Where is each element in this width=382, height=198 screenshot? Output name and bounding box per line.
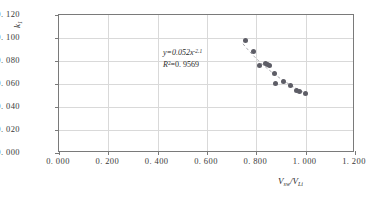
x-axis-tick-label: 1. 200 (342, 156, 366, 166)
y-axis-tick (55, 61, 59, 62)
chart-figure: k1 Vsw/VLi y=0.052x-2.1 R2=0. 9569 0. 00… (0, 0, 382, 198)
gridline-horizontal (59, 107, 353, 108)
gridline-vertical (306, 15, 307, 151)
gridline-horizontal (59, 61, 353, 62)
plot-area (58, 14, 354, 152)
y-axis-tick (55, 15, 59, 16)
y-axis-tick-label: 0. 000 (0, 147, 20, 157)
x-axis-tick-label: 0. 000 (46, 156, 70, 166)
x-axis-tick-label: 0. 400 (145, 156, 169, 166)
data-point (273, 81, 278, 86)
y-axis-tick-label: 0. 080 (0, 55, 20, 65)
y-axis-tick-label: 0. 020 (0, 124, 20, 134)
gridline-vertical (256, 15, 257, 151)
data-point (281, 79, 286, 84)
x-axis-tick (108, 151, 109, 155)
x-axis-tick (158, 151, 159, 155)
regression-equation: y=0.052x-2.1 (163, 46, 202, 58)
x-axis-tick-label: 1. 000 (293, 156, 317, 166)
x-axis-tick (59, 151, 60, 155)
gridline-vertical (158, 15, 159, 151)
x-axis-tick (207, 151, 208, 155)
y-axis-title: k1 (12, 21, 23, 28)
y-axis-tick (55, 130, 59, 131)
x-axis-tick-label: 0. 200 (96, 156, 120, 166)
x-axis-tick-label: 0. 600 (194, 156, 218, 166)
gridline-horizontal (59, 38, 353, 39)
x-axis-title: Vsw/VLi (278, 176, 303, 187)
y-axis-tick-label: 0. 040 (0, 101, 20, 111)
x-axis-tick (306, 151, 307, 155)
x-axis-tick (355, 151, 356, 155)
y-axis-tick (55, 38, 59, 39)
gridline-vertical (207, 15, 208, 151)
data-point (297, 89, 302, 94)
y-axis-tick-label: 0. 120 (0, 9, 20, 19)
gridline-horizontal (59, 130, 353, 131)
y-axis-tick-label: 0. 060 (0, 78, 20, 88)
data-point (267, 63, 272, 68)
x-axis-tick-label: 0. 800 (244, 156, 268, 166)
x-axis-tick (256, 151, 257, 155)
r-squared-value: R2=0. 9569 (163, 58, 202, 70)
y-axis-tick (55, 107, 59, 108)
regression-annotation: y=0.052x-2.1 R2=0. 9569 (163, 46, 202, 71)
data-point (272, 71, 277, 76)
y-axis-tick (55, 84, 59, 85)
gridline-vertical (108, 15, 109, 151)
gridline-horizontal (59, 84, 353, 85)
y-axis-tick-label: 0. 100 (0, 32, 20, 42)
